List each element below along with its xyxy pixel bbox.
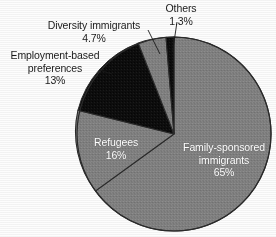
pie-label-diversity-immigrants: Diversity immigrants 4.7% bbox=[32, 19, 156, 44]
pie-chart-figure: Others 1.3% Diversity immigrants 4.7% Em… bbox=[0, 0, 276, 237]
pie-label-diversity-immigrants-percent: 4.7% bbox=[32, 32, 156, 45]
pie-label-family-sponsored-immigrants-line2: immigrants bbox=[199, 154, 249, 166]
pie-label-employment-based-preferences: Employment-based preferences 13% bbox=[2, 49, 108, 87]
pie-label-family-sponsored-immigrants-line1: Family-sponsored bbox=[183, 141, 265, 153]
pie-label-refugees-name: Refugees bbox=[94, 136, 138, 148]
pie-label-refugees: Refugees 16% bbox=[84, 136, 148, 161]
pie-label-others-name: Others bbox=[166, 2, 197, 14]
pie-label-others: Others 1.3% bbox=[151, 2, 211, 27]
pie-label-family-sponsored-immigrants: Family-sponsored immigrants 65% bbox=[182, 141, 266, 179]
pie-label-refugees-percent: 16% bbox=[84, 149, 148, 162]
pie-label-employment-based-preferences-line2: preferences bbox=[28, 62, 82, 74]
pie-label-others-percent: 1.3% bbox=[151, 15, 211, 28]
pie-label-employment-based-preferences-line1: Employment-based bbox=[11, 49, 100, 61]
pie-label-employment-based-preferences-percent: 13% bbox=[2, 74, 108, 87]
pie-label-diversity-immigrants-name: Diversity immigrants bbox=[48, 19, 141, 31]
pie-label-family-sponsored-immigrants-percent: 65% bbox=[182, 166, 266, 179]
